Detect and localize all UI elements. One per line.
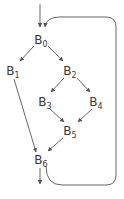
node-b5: B5 — [63, 125, 76, 137]
edge-b2-to-b4 — [77, 78, 90, 92]
control-flow-diagram: B0 B1 B2 B3 B4 B5 B6 — [0, 0, 124, 199]
edge-b6-to-b0-loop — [45, 17, 116, 185]
node-subscript: 5 — [72, 131, 77, 140]
node-b1: B1 — [6, 65, 19, 77]
edge-b4-to-b5 — [78, 109, 92, 122]
node-label: B — [63, 124, 71, 138]
node-label: B — [6, 64, 14, 78]
edges-layer — [0, 0, 124, 199]
node-subscript: 0 — [43, 40, 48, 49]
edge-b5-to-b6 — [48, 138, 63, 151]
node-subscript: 6 — [43, 160, 48, 169]
node-label: B — [63, 64, 71, 78]
node-subscript: 3 — [47, 102, 52, 111]
edge-b3-to-b5 — [50, 109, 64, 122]
node-b0: B0 — [34, 34, 47, 46]
node-label: B — [89, 95, 97, 109]
node-subscript: 4 — [98, 102, 103, 111]
edge-b0-to-b2 — [48, 46, 63, 61]
node-label: B — [34, 33, 42, 47]
node-b3: B3 — [38, 96, 51, 108]
edge-b2-to-b3 — [51, 78, 64, 92]
edge-b0-to-b1 — [20, 46, 34, 61]
node-b2: B2 — [63, 65, 76, 77]
node-b6: B6 — [34, 154, 47, 166]
node-b4: B4 — [89, 96, 102, 108]
node-label: B — [38, 95, 46, 109]
node-subscript: 1 — [15, 71, 20, 80]
edge-b1-to-b6 — [14, 79, 36, 152]
node-label: B — [34, 153, 42, 167]
node-subscript: 2 — [72, 71, 77, 80]
